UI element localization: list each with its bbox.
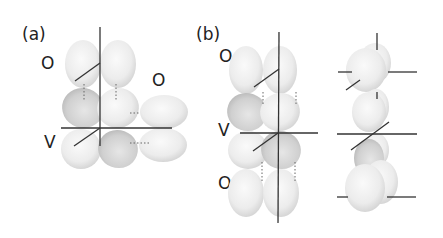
orbital-diagram <box>0 0 443 238</box>
panel-a-orbitals <box>56 27 188 174</box>
panel-b-orbitals <box>222 32 318 223</box>
panel-b-side-orbitals <box>337 33 417 212</box>
